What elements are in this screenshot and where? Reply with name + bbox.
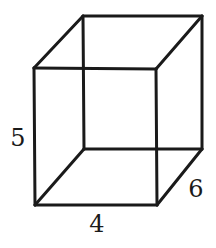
front-top-edge — [34, 68, 156, 69]
front-left-edge — [34, 68, 35, 205]
depth-edges — [34, 16, 202, 205]
front-right-edge — [156, 69, 157, 205]
height-label: 5 — [10, 124, 25, 152]
depth-edge-bottom-left — [35, 149, 84, 205]
depth-label: 6 — [188, 175, 203, 203]
back-left-edge — [83, 16, 84, 149]
prism-diagram: 5 4 6 — [0, 0, 216, 248]
depth-edge-top-left — [34, 16, 83, 68]
depth-edge-top-right — [156, 16, 202, 69]
width-label: 4 — [89, 210, 104, 238]
